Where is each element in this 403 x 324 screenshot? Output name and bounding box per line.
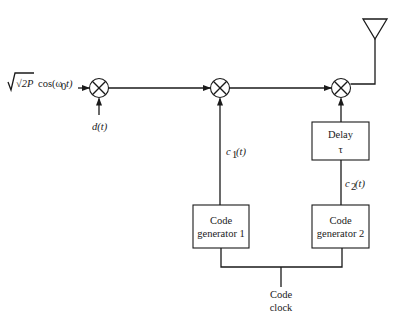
wire-to-antenna bbox=[351, 39, 376, 84]
code-clock-label: Code clock bbox=[270, 289, 293, 313]
code-gen-2-line1: Code bbox=[329, 215, 352, 226]
svg-text:c: c bbox=[345, 178, 350, 189]
code-gen-1-line2: generator 1 bbox=[197, 228, 245, 239]
svg-text:clock: clock bbox=[270, 302, 293, 313]
mixer-2-icon bbox=[211, 79, 230, 98]
svg-text:(t): (t) bbox=[355, 178, 365, 190]
code-gen-1-line1: Code bbox=[210, 215, 233, 226]
data-signal-label: d(t) bbox=[92, 121, 108, 133]
svg-text:Code: Code bbox=[270, 289, 293, 300]
svg-text:(t): (t) bbox=[236, 146, 246, 158]
code-gen-2-line2: generator 2 bbox=[317, 228, 365, 239]
delay-block: Delay τ bbox=[312, 122, 369, 160]
code-generator-2-block: Code generator 2 bbox=[312, 205, 369, 248]
mixer-3-icon bbox=[332, 79, 351, 98]
delay-label: Delay bbox=[328, 129, 354, 140]
mixer-1-icon bbox=[90, 79, 109, 98]
input-sqrt-term: √2P bbox=[16, 78, 34, 89]
delay-tau: τ bbox=[338, 144, 342, 155]
input-cos-term: cos(ω bbox=[38, 78, 62, 90]
input-signal-label: √2P cos(ω 0 t) bbox=[8, 73, 73, 92]
code-generator-1-block: Code generator 1 bbox=[193, 205, 249, 248]
antenna-icon bbox=[363, 19, 387, 39]
c1-signal-label: c 1 (t) bbox=[226, 146, 246, 160]
svg-text:c: c bbox=[226, 146, 231, 157]
c2-signal-label: c 2 (t) bbox=[345, 178, 365, 192]
input-tail: t) bbox=[66, 78, 73, 90]
clock-bus bbox=[221, 248, 342, 267]
block-diagram: √2P cos(ω 0 t) d(t) c 1 (t) bbox=[0, 0, 403, 324]
